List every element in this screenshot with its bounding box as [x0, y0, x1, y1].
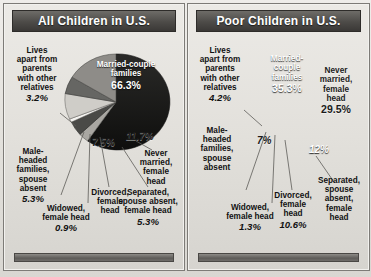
callout-separated-right-l4: female [326, 204, 352, 213]
callout-widowed-left-pct: 0.9% [34, 223, 98, 234]
callout-relatives-left: Lives apart from parents with other rela… [8, 46, 66, 104]
callout-nm-left-l4: head [146, 177, 165, 186]
callout-separated-left: Separated, spouse absent, female head 5.… [115, 188, 181, 227]
callout-male-left-l2: headed [19, 156, 48, 165]
callout-separated-left-l3: female head [124, 206, 171, 215]
callout-separated-right: Separated, spouse absent, female head [312, 176, 366, 223]
callout-relatives-left-pct: 3.2% [8, 93, 66, 104]
callout-relatives-left-l2: apart from [17, 55, 58, 64]
callout-separated-right-l3: absent, [325, 194, 354, 203]
callout-relatives-right-l1: Lives [210, 46, 231, 55]
leader-relatives-right [244, 110, 262, 126]
callout-divorced-right: Divorced, female head 10.6% [270, 191, 316, 230]
leader-relatives-left [60, 113, 76, 126]
callout-separated-right-l5: head [329, 213, 348, 222]
callout-male-headed-left: Male- headed families, spouse absent 5.3… [6, 147, 60, 205]
callout-widowed-right-l1: Widowed, [231, 203, 269, 212]
callout-relatives-right-pct: 4.2% [191, 93, 249, 104]
callout-separated-right-l1: Separated, [318, 176, 360, 185]
bottom-rule-left [14, 253, 174, 262]
leader-divorced-right [285, 140, 292, 190]
callout-relatives-left-l3: parents [22, 64, 52, 73]
callout-divorced-right-l3: head [283, 209, 302, 218]
callout-male-headed-right: Male- headed families, spouse absent [190, 126, 244, 173]
callout-separated-right-l2: spouse [325, 185, 354, 194]
panel-poor-children: Poor Children in U.S. [187, 3, 370, 271]
bottom-rule-right [198, 253, 359, 262]
callout-nm-left-l3: female [143, 167, 169, 176]
callout-male-right-l4: spouse [203, 154, 232, 163]
callout-separated-left-pct: 5.3% [115, 217, 181, 228]
leader-male-headed-left [61, 132, 84, 195]
callout-male-left-l4: spouse [19, 175, 48, 184]
callout-male-right-l1: Male- [207, 126, 228, 135]
panel-all-children: All Children in U.S. [3, 3, 185, 271]
callout-male-left-l5: absent [20, 184, 46, 193]
callout-nm-left-l2: married, [140, 158, 172, 167]
callout-relatives-left-l4: with other [17, 74, 56, 83]
callout-relatives-right-l3: parents [205, 64, 235, 73]
callout-never-married-left: Never married, female head [132, 149, 180, 187]
callout-nm-left-l1: Never [145, 149, 168, 158]
leader-divorced-left [100, 137, 109, 187]
callout-relatives-right-l5: relatives [203, 83, 236, 92]
callout-male-right-l5: absent [204, 163, 230, 172]
callout-relatives-left-l5: relatives [20, 83, 53, 92]
callout-separated-left-l2: spouse absent, [118, 197, 178, 206]
callout-male-right-l3: families, [201, 144, 234, 153]
callout-relatives-right-l2: apart from [200, 55, 241, 64]
callout-male-right-l2: headed [203, 135, 232, 144]
callout-widowed-left-l1: Widowed, [47, 204, 85, 213]
infographic-root: All Children in U.S. [0, 0, 371, 277]
callout-male-left-l3: families, [17, 165, 50, 174]
callout-widowed-left-l2: female head [42, 213, 89, 222]
callout-relatives-left-l1: Lives [27, 46, 48, 55]
callout-widowed-right-l2: female head [226, 212, 273, 221]
callout-male-left-l1: Male- [23, 147, 44, 156]
callout-divorced-right-l2: female [280, 200, 306, 209]
leader-male-headed-right [246, 132, 266, 190]
callout-separated-left-l1: Separated, [127, 188, 169, 197]
callout-divorced-right-l1: Divorced, [274, 191, 311, 200]
callout-relatives-right-l4: with other [200, 74, 239, 83]
callout-relatives-right: Lives apart from parents with other rela… [191, 46, 249, 104]
callout-divorced-right-pct: 10.6% [270, 220, 316, 231]
